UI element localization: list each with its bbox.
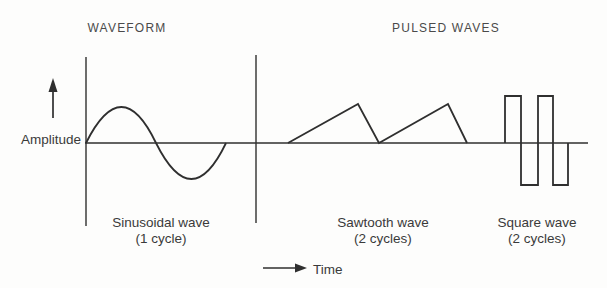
time-arrow-icon: [263, 264, 307, 273]
waveform-title: WAVEFORM: [88, 21, 167, 35]
sawtooth-wave-cycles: (2 cycles): [337, 231, 429, 247]
sawtooth-wave-name: Sawtooth wave: [337, 215, 429, 231]
square-wave-curve: [505, 96, 568, 185]
amplitude-label: Amplitude: [21, 132, 81, 147]
square-wave-cycles: (2 cycles): [498, 231, 577, 247]
pulsed-waves-title: PULSED WAVES: [392, 21, 500, 35]
sawtooth-wave-caption: Sawtooth wave (2 cycles): [337, 215, 429, 247]
square-wave-caption: Square wave (2 cycles): [498, 215, 577, 247]
sawtooth-wave-curve: [288, 104, 467, 143]
sinusoidal-wave-caption: Sinusoidal wave (1 cycle): [112, 215, 210, 247]
amplitude-arrow-icon: [49, 78, 58, 118]
sinusoidal-wave-cycles: (1 cycle): [112, 231, 210, 247]
sinusoidal-wave-name: Sinusoidal wave: [112, 215, 210, 231]
time-label: Time: [313, 262, 343, 277]
square-wave-name: Square wave: [498, 215, 577, 231]
waveform-diagram: WAVEFORM PULSED WAVES Amplitude Sinusoid…: [0, 0, 607, 288]
